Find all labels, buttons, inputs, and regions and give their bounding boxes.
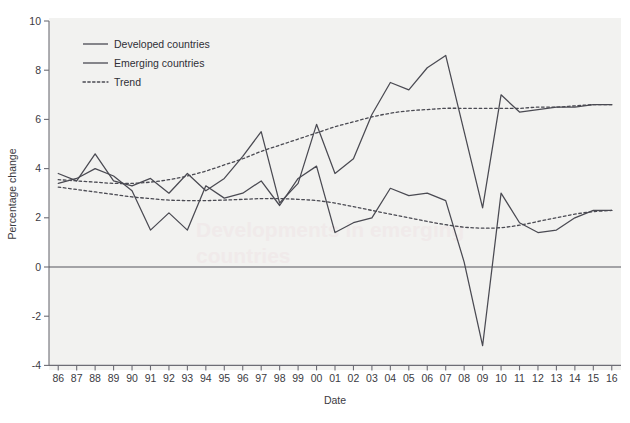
y-tick-label: -2	[32, 310, 41, 322]
legend-item-label: Trend	[114, 76, 141, 88]
x-tick-label: 89	[108, 372, 120, 384]
x-tick-label: 05	[403, 372, 415, 384]
line-chart: -4-20246810 8687888990919293949596979899…	[0, 0, 630, 423]
y-axis-tick-labels: -4-20246810	[29, 15, 41, 371]
x-tick-label: 10	[495, 372, 507, 384]
x-tick-label: 09	[477, 372, 489, 384]
x-tick-label: 12	[532, 372, 544, 384]
x-axis-tick-labels: 8687888990919293949596979899000102030405…	[52, 372, 617, 384]
x-tick-label: 07	[440, 372, 452, 384]
x-tick-label: 91	[145, 372, 157, 384]
y-tick-label: 8	[35, 64, 41, 76]
y-tick-label: 6	[35, 113, 41, 125]
y-tick-label: -4	[32, 359, 41, 371]
x-tick-label: 13	[551, 372, 563, 384]
x-tick-label: 87	[71, 372, 83, 384]
series-path	[58, 55, 612, 208]
x-tick-label: 00	[311, 372, 323, 384]
x-tick-label: 03	[366, 372, 378, 384]
x-tick-label: 86	[52, 372, 64, 384]
x-tick-label: 08	[458, 372, 470, 384]
x-tick-label: 97	[255, 372, 267, 384]
x-tick-label: 99	[292, 372, 304, 384]
legend-item-label: Developed countries	[114, 38, 210, 50]
x-tick-label: 95	[218, 372, 230, 384]
chart-figure: Developments in emerging countries -4-20…	[0, 0, 630, 423]
legend-item-label: Emerging countries	[114, 57, 204, 69]
x-tick-label: 06	[421, 372, 433, 384]
x-tick-label: 01	[329, 372, 341, 384]
y-tick-label: 2	[35, 211, 41, 223]
x-tick-label: 15	[587, 372, 599, 384]
x-tick-label: 92	[163, 372, 175, 384]
series-path	[58, 187, 612, 228]
x-tick-label: 93	[182, 372, 194, 384]
x-tick-label: 88	[89, 372, 101, 384]
x-tick-label: 02	[348, 372, 360, 384]
x-axis-title: Date	[324, 394, 346, 406]
x-tick-label: 98	[274, 372, 286, 384]
x-tick-label: 14	[569, 372, 581, 384]
chart-axes	[44, 21, 621, 370]
x-tick-label: 90	[126, 372, 138, 384]
x-tick-label: 96	[237, 372, 249, 384]
y-tick-label: 0	[35, 261, 41, 273]
x-tick-label: 94	[200, 372, 212, 384]
chart-legend: Developed countriesEmerging countriesTre…	[83, 38, 210, 88]
x-tick-label: 11	[514, 372, 525, 384]
series-path	[58, 166, 612, 346]
y-tick-label: 10	[29, 15, 41, 27]
x-tick-label: 04	[385, 372, 397, 384]
y-tick-label: 4	[35, 162, 41, 174]
chart-series-group	[58, 55, 612, 345]
x-tick-label: 16	[606, 372, 618, 384]
y-axis-title: Percentage change	[6, 148, 18, 239]
series-path	[58, 105, 612, 184]
